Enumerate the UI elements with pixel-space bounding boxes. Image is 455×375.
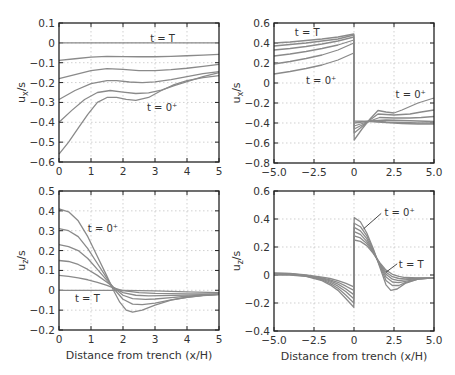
y-tick-label: −0.2: [30, 77, 56, 89]
x-tick-label: 2: [120, 165, 127, 177]
y-tick-label: −0.2: [245, 297, 271, 309]
x-tick-label: 0: [351, 166, 358, 178]
y-tick-label: −0.2: [245, 97, 271, 109]
x-tick-label: 1: [88, 333, 95, 345]
x-tick-label: 5: [216, 165, 223, 177]
y-tick-label: −0.6: [30, 156, 56, 168]
series-line: [59, 64, 219, 78]
panel-bottom-right: −5.0−2.502.55.00.60.40.20−0.2−0.4t = 0⁺t…: [230, 185, 442, 363]
x-tick-label: 5.0: [426, 166, 443, 178]
annotation-leader: [364, 213, 382, 228]
x-tick-label: −2.5: [301, 166, 327, 178]
y-tick-label: 0.6: [253, 185, 270, 197]
y-tick-label: 0.2: [253, 241, 270, 253]
y-tick-label: 0: [48, 37, 55, 49]
x-tick-label: 1: [88, 165, 95, 177]
y-tick-label: 0.4: [253, 213, 270, 225]
panel-bottom-left: 0123450.50.40.30.20.10−0.1−0.2t = 0⁺t = …: [15, 185, 222, 362]
x-tick-label: 2.5: [386, 166, 403, 178]
curve-annotation: t = T: [75, 293, 101, 304]
panel-top-left: 0123450.10−0.1−0.2−0.3−0.4−0.5−0.6t = Tt…: [15, 17, 222, 177]
curve-annotation: t = 0⁺: [396, 89, 426, 100]
x-axis-title: Distance from trench (x/H): [281, 350, 428, 363]
x-tick-label: 0: [351, 334, 358, 346]
y-tick-label: −0.8: [245, 157, 271, 169]
panel-top-right: −5.0−2.502.55.00.60.40.20−0.2−0.4−0.6−0.…: [230, 17, 442, 178]
curve-annotation: t = 0⁺: [147, 102, 177, 113]
y-tick-label: 0.3: [38, 225, 55, 237]
plot-frame: [59, 23, 219, 162]
x-tick-label: 3: [152, 333, 159, 345]
y-tick-label: 0.6: [253, 17, 270, 29]
curve-annotation: t = T: [399, 259, 425, 270]
plot-frame: [59, 191, 219, 330]
y-tick-label: 0.2: [38, 245, 55, 257]
y-tick-label: −0.4: [30, 116, 56, 128]
y-tick-label: −0.1: [30, 57, 56, 69]
y-tick-label: −0.1: [30, 304, 56, 316]
x-tick-label: 3: [152, 165, 159, 177]
y-tick-label: 0.1: [38, 264, 55, 276]
y-tick-label: −0.5: [30, 136, 56, 148]
y-tick-label: −0.4: [245, 117, 271, 129]
y-tick-label: 0: [263, 269, 270, 281]
y-tick-label: 0: [48, 284, 55, 296]
y-axis-title: ux/s: [230, 82, 245, 103]
x-tick-label: 0: [56, 333, 63, 345]
annotation-leader: [386, 264, 397, 272]
series-line: [59, 54, 219, 60]
x-tick-label: 4: [184, 165, 191, 177]
x-tick-label: 5.0: [426, 334, 443, 346]
x-tick-label: 5: [216, 333, 223, 345]
y-tick-label: −0.4: [245, 325, 271, 337]
curve-annotation: t = 0⁺: [384, 207, 414, 218]
x-tick-label: 4: [184, 333, 191, 345]
x-tick-label: −2.5: [301, 334, 327, 346]
y-tick-label: −0.2: [30, 324, 56, 336]
series-line: [59, 72, 219, 100]
y-axis-title: uz/s: [230, 250, 245, 271]
figure-canvas: 0123450.10−0.1−0.2−0.3−0.4−0.5−0.6t = Tt…: [0, 0, 455, 375]
y-tick-label: 0.2: [253, 57, 270, 69]
y-tick-label: −0.3: [30, 96, 56, 108]
y-axis-title: uz/s: [15, 250, 30, 271]
y-axis-title: ux/s: [15, 82, 30, 103]
y-tick-label: 0.1: [38, 17, 55, 29]
x-tick-label: 2.5: [386, 334, 403, 346]
curve-annotation: t = T: [150, 33, 176, 44]
x-axis-title: Distance from trench (x/H): [66, 349, 213, 362]
y-tick-label: 0.5: [38, 185, 55, 197]
y-tick-label: 0.4: [253, 37, 270, 49]
series-line: [59, 73, 219, 123]
y-tick-label: 0.4: [38, 205, 55, 217]
curve-annotation: t = 0⁺: [88, 223, 118, 234]
y-tick-label: −0.6: [245, 137, 271, 149]
curve-annotation: t = 0⁺: [306, 75, 336, 86]
x-tick-label: 2: [120, 333, 127, 345]
y-tick-label: 0: [263, 77, 270, 89]
curve-annotation: t = T: [295, 27, 321, 38]
x-tick-label: 0: [56, 165, 63, 177]
